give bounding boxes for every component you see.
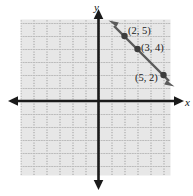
y-axis-label: y xyxy=(93,1,99,13)
coordinate-graph-figure: (2, 5) (3, 4) (5, 2) y x xyxy=(0,0,193,196)
data-point-5-2 xyxy=(160,72,166,78)
point-label-2-5: (2, 5) xyxy=(128,25,151,37)
point-label-3-4: (3, 4) xyxy=(141,42,164,54)
data-point-2-5 xyxy=(121,33,127,39)
coordinate-plane-svg: (2, 5) (3, 4) (5, 2) y x xyxy=(0,0,193,196)
point-label-5-2: (5, 2) xyxy=(135,72,158,84)
x-axis-label: x xyxy=(184,96,190,108)
y-axis-bottom-arrowhead xyxy=(94,180,104,190)
x-axis-left-arrowhead xyxy=(8,96,18,106)
data-point-3-4 xyxy=(134,46,140,52)
x-axis-right-arrowhead xyxy=(174,96,184,106)
